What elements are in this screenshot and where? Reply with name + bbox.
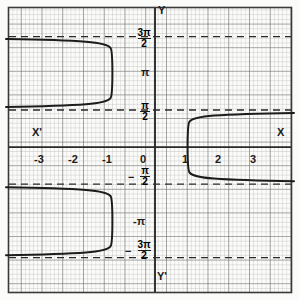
y-tick-3pi-over-2-numerator: 3π xyxy=(133,28,155,38)
x-tick-label--1: -1 xyxy=(102,154,112,165)
graph-figure: X' X Y Y' -3 -2 -1 0 1 2 3 3π 2 π π 2 − … xyxy=(0,0,299,300)
y-tick-label-pi-over-2: π 2 xyxy=(136,101,154,122)
y-tick-label-neg-pi: -π xyxy=(133,216,145,227)
x-tick-label-1: 1 xyxy=(182,154,188,165)
x-tick-label-2: 2 xyxy=(215,154,221,165)
y-tick-label-3pi-over-2: 3π 2 xyxy=(133,28,155,49)
y-tick-pi-over-2-denominator: 2 xyxy=(136,112,154,122)
y-tick-neg-pi-over-2-denominator: 2 xyxy=(136,177,154,187)
x-axis-label-right: X xyxy=(277,127,284,138)
y-tick-label-pi: π xyxy=(141,67,149,78)
x-tick-label-3: 3 xyxy=(250,154,256,165)
x-tick-label-0: 0 xyxy=(140,154,146,165)
y-tick-label-neg-pi-over-2: π 2 xyxy=(136,166,154,187)
y-axis-label-top: Y xyxy=(158,5,165,16)
x-tick-label--3: -3 xyxy=(34,154,44,165)
x-axis-label-left: X' xyxy=(32,127,42,138)
y-tick-label-neg-3pi-over-2: 3π 2 xyxy=(133,240,155,261)
y-tick-neg-3pi-over-2-numerator: 3π xyxy=(133,240,155,250)
minus-sign-pi-over-2-icon: − xyxy=(128,172,134,183)
y-axis-label-bottom: Y' xyxy=(157,271,167,282)
x-tick-label--2: -2 xyxy=(68,154,78,165)
y-tick-pi-over-2-numerator: π xyxy=(136,101,154,111)
y-tick-neg-3pi-over-2-denominator: 2 xyxy=(133,251,155,261)
minus-sign-3pi-over-2-icon: − xyxy=(125,246,131,257)
y-tick-neg-pi-over-2-numerator: π xyxy=(136,166,154,176)
y-tick-3pi-over-2-denominator: 2 xyxy=(133,39,155,49)
